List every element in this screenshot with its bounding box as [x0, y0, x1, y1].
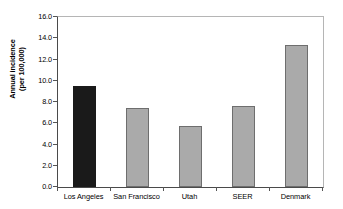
- y-tick-label: 6.0: [24, 118, 52, 127]
- bar-los-angeles: [73, 86, 96, 187]
- x-tick-label: Utah: [182, 192, 197, 201]
- x-tick-label: Los Angeles: [64, 192, 104, 201]
- y-tick-label: 4.0: [24, 139, 52, 148]
- y-tick-label: 16.0: [24, 12, 52, 21]
- x-axis-tick-marks: [57, 187, 323, 191]
- y-tick-label: 12.0: [24, 54, 52, 63]
- y-tick-mark: [53, 144, 57, 145]
- y-tick-label: 2.0: [24, 160, 52, 169]
- x-tick-label: San Francisco: [113, 192, 160, 201]
- bar-utah: [179, 126, 202, 187]
- y-tick-mark: [53, 80, 57, 81]
- y-tick-mark: [53, 37, 57, 38]
- plot-area: [57, 16, 324, 188]
- y-tick-label: 8.0: [24, 97, 52, 106]
- x-tick-mark: [216, 187, 217, 191]
- y-tick-label: 10.0: [24, 75, 52, 84]
- bar-seer: [232, 106, 255, 187]
- y-tick-label: 14.0: [24, 33, 52, 42]
- y-tick-mark: [53, 186, 57, 187]
- x-axis-tick-labels: Los AngelesSan FranciscoUtahSEERDenmark: [57, 192, 323, 206]
- bars-layer: [58, 17, 323, 187]
- y-tick-label: 0.0: [24, 182, 52, 191]
- x-tick-mark: [269, 187, 270, 191]
- x-tick-label: SEER: [233, 192, 253, 201]
- y-tick-mark: [53, 122, 57, 123]
- x-tick-mark: [322, 187, 323, 191]
- y-tick-mark: [53, 16, 57, 17]
- y-tick-mark: [53, 165, 57, 166]
- x-tick-mark: [110, 187, 111, 191]
- x-tick-mark: [57, 187, 58, 191]
- y-axis-tick-labels: 0.02.04.06.08.010.012.014.016.0: [24, 16, 52, 186]
- y-tick-mark: [53, 59, 57, 60]
- x-tick-label: Denmark: [281, 192, 311, 201]
- x-tick-mark: [163, 187, 164, 191]
- y-axis-title-line1: Annual incidence: [8, 39, 17, 99]
- y-tick-mark: [53, 101, 57, 102]
- bar-san-francisco: [126, 108, 149, 187]
- bar-denmark: [285, 45, 308, 187]
- bar-chart-figure: Annual incidence (per 100,000) 0.02.04.0…: [0, 0, 343, 209]
